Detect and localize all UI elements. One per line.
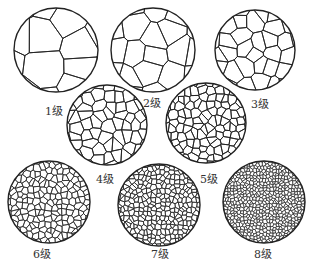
micrograph-boundary [223, 161, 305, 243]
grade-5-micrograph [151, 68, 261, 178]
grain-size-chart [0, 0, 309, 267]
micrograph-boundary [111, 8, 195, 92]
grade-5-label: 5级 [200, 170, 218, 186]
micrograph-boundary [14, 8, 98, 92]
grade-4-micrograph [47, 65, 168, 186]
micrograph-boundary [67, 85, 147, 165]
grade-1-label: 1级 [45, 102, 63, 118]
grade-2-label: 2级 [143, 94, 161, 110]
grade-1-micrograph [0, 0, 159, 153]
grade-4-label: 4级 [96, 170, 114, 186]
grade-3-label: 3级 [251, 95, 269, 111]
grade-6-label: 6级 [33, 245, 51, 261]
grade-7-label: 7级 [151, 245, 169, 261]
grade-7-micrograph [109, 155, 209, 255]
grade-6-micrograph [0, 150, 102, 255]
grade-8-label: 8级 [254, 245, 272, 261]
grade-8-micrograph [217, 155, 309, 250]
